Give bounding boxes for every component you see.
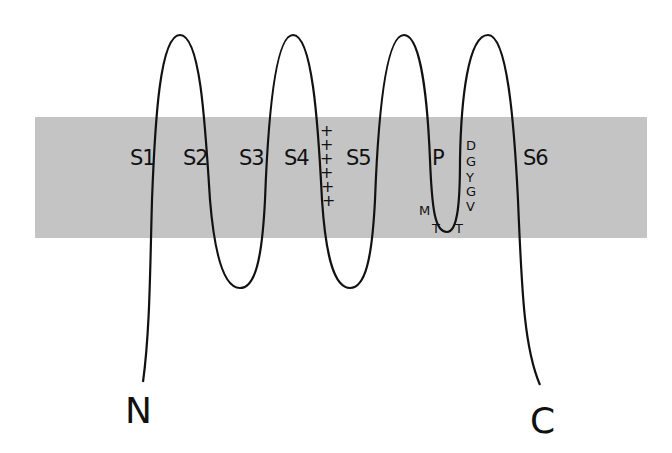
segment-label-s1: S1 (130, 148, 155, 169)
potassium-channel-topology-diagram: S1 S2 S3 S4 S5 P S6 + + + + + + D G Y G … (0, 0, 672, 453)
segment-label-p: P (432, 148, 444, 169)
positive-charge-icon: + (322, 193, 335, 209)
residue-g: G (466, 185, 476, 198)
n-terminus-label: N (125, 393, 152, 429)
segment-label-s5: S5 (346, 148, 371, 169)
residue-d: D (466, 139, 476, 152)
residue-v: V (466, 200, 475, 213)
residue-t: T (455, 222, 463, 235)
residue-y: Y (466, 171, 474, 184)
residue-m: M (419, 204, 430, 217)
polypeptide-chain-line (0, 0, 672, 453)
c-terminus-label: C (530, 403, 555, 439)
segment-label-s2: S2 (183, 148, 208, 169)
segment-label-s3: S3 (239, 148, 264, 169)
residue-g: G (466, 155, 476, 168)
segment-label-s6: S6 (523, 148, 548, 169)
residue-t: T (432, 222, 440, 235)
segment-label-s4: S4 (284, 148, 309, 169)
